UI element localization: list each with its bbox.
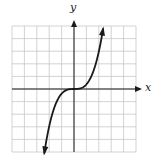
axes xyxy=(12,20,142,152)
curve-arrow-down-icon xyxy=(42,146,48,155)
curve-arrow-up-icon xyxy=(99,27,105,36)
x-axis-arrow-icon xyxy=(135,86,142,92)
x-axis-label: x xyxy=(145,82,151,93)
cubic-graph xyxy=(0,0,160,159)
y-axis-label: y xyxy=(70,2,76,13)
y-axis-arrow-icon xyxy=(71,20,77,27)
